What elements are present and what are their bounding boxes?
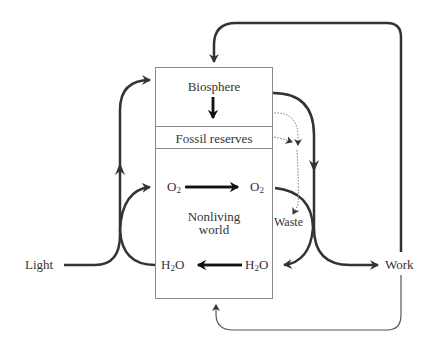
light-label: Light <box>25 258 53 271</box>
nonliving-label-line2: world <box>156 223 272 236</box>
h2o-to-o2-left-arrow <box>120 187 155 265</box>
fossil-to-waste-dotted <box>274 137 292 142</box>
light-to-biosphere-arrow <box>64 80 150 265</box>
h2o-left-label: H2O <box>161 258 184 271</box>
waste-label: Waste <box>274 216 303 228</box>
to-waste-dotted <box>293 150 298 214</box>
biosphere-label: Biosphere <box>156 80 272 93</box>
biosphere-box: Biosphere <box>155 67 273 127</box>
fossil-reserves-label: Fossil reserves <box>156 132 272 145</box>
o2-left-label: O2 <box>167 180 181 193</box>
biosphere-to-work-arrow <box>273 93 378 265</box>
o2-right-label: O2 <box>250 180 264 193</box>
nonliving-world-box: Nonliving world <box>155 148 273 299</box>
h2o-right-label: H2O <box>245 258 268 271</box>
work-label: Work <box>385 258 414 271</box>
fossil-reserves-box: Fossil reserves <box>155 126 273 149</box>
